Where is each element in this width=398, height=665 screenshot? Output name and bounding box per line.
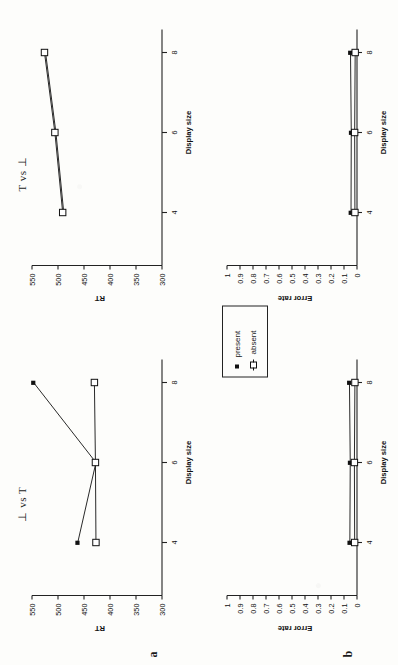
ytick-0-4: 0.4: [301, 603, 310, 613]
ytick-350: 350: [132, 603, 141, 615]
panel-a2-plot: 300 350 400 450 500 550 4 6 8 Display si…: [10, 17, 195, 317]
panel-b2-error: 0 0.1 0.2 0.3 0.4 0.5 0.6 0.7 0.8 0.9 1 …: [205, 17, 390, 317]
marker-absent: [352, 379, 358, 385]
marker-absent: [352, 49, 358, 55]
ytick-550: 550: [28, 273, 37, 285]
xtick-6: 6: [170, 460, 179, 464]
panel-b-xlabel: Display size: [379, 440, 388, 483]
xtick-8: 8: [170, 50, 179, 54]
panel-label-b: b: [341, 650, 356, 657]
panel-a-plot: 300 350 400 450 500 550 4 6 8 Display si…: [10, 347, 195, 647]
marker-absent: [59, 209, 65, 215]
ytick-0-8: 0.8: [249, 273, 258, 283]
marker-absent: [351, 129, 357, 135]
series-present-line: [34, 382, 96, 542]
xtick-6: 6: [365, 130, 374, 134]
marker-absent: [351, 459, 357, 465]
marker-absent: [91, 379, 97, 385]
xtick-4: 4: [170, 210, 179, 214]
ytick-300: 300: [158, 603, 167, 615]
figure-page: a ⊥ vs T 300 350 400 450 500 550: [0, 0, 398, 665]
panel-b-ylabel: Error rate: [278, 623, 313, 632]
ytick-550: 550: [28, 603, 37, 615]
xtick-6: 6: [365, 460, 374, 464]
ytick-0: 0: [353, 603, 362, 607]
panel-a2-rt: T vs ⊥ 300 350 400 450 500 550: [10, 17, 195, 317]
ytick-500: 500: [54, 273, 63, 285]
ytick-0-1: 0.1: [340, 603, 349, 613]
ytick-0-2: 0.2: [327, 273, 336, 283]
ytick-450: 450: [80, 273, 89, 285]
xtick-8: 8: [170, 380, 179, 384]
ytick-0-6: 0.6: [275, 603, 284, 613]
panel-a-xlabel: Display size: [184, 440, 193, 483]
panel-a2-xlabel: Display size: [184, 110, 193, 153]
ytick-1: 1: [223, 273, 232, 277]
ytick-500: 500: [54, 603, 63, 615]
panel-label-a: a: [146, 651, 161, 657]
ytick-0-5: 0.5: [288, 273, 297, 283]
ytick-0-3: 0.3: [314, 273, 323, 283]
panel-b2-xlabel: Display size: [379, 110, 388, 153]
ytick-400: 400: [106, 603, 115, 615]
panel-a2-ylabel: RT: [95, 293, 105, 302]
marker-absent: [93, 539, 99, 545]
ytick-0-7: 0.7: [262, 273, 271, 283]
ytick-0-5: 0.5: [288, 603, 297, 613]
xtick-6: 6: [170, 130, 179, 134]
panel-a-rt: a ⊥ vs T 300 350 400 450 500 550: [10, 347, 195, 647]
ytick-0-7: 0.7: [262, 603, 271, 613]
ytick-0: 0: [353, 273, 362, 277]
marker-absent: [352, 209, 358, 215]
panel-a-ylabel: RT: [95, 623, 105, 632]
marker-absent: [92, 459, 98, 465]
ytick-450: 450: [80, 603, 89, 615]
panel-b2-ylabel: Error rate: [278, 293, 313, 302]
marker-absent: [41, 49, 47, 55]
panel-a-title: ⊥ vs T: [16, 486, 29, 521]
ytick-0-3: 0.3: [314, 603, 323, 613]
panel-b2-plot: 0 0.1 0.2 0.3 0.4 0.5 0.6 0.7 0.8 0.9 1 …: [205, 17, 390, 317]
ytick-0-9: 0.9: [236, 603, 245, 613]
marker-present: [75, 540, 79, 544]
marker-present: [31, 380, 35, 384]
panel-a2-title: T vs ⊥: [16, 156, 29, 191]
panel-b-error: b 0 0.1 0.2 0.3 0.4 0.5 0.: [205, 347, 390, 647]
ytick-0-1: 0.1: [340, 273, 349, 283]
ytick-0-9: 0.9: [236, 273, 245, 283]
ytick-0-2: 0.2: [327, 603, 336, 613]
ytick-350: 350: [132, 273, 141, 285]
xtick-8: 8: [365, 50, 374, 54]
xtick-8: 8: [365, 380, 374, 384]
ytick-400: 400: [106, 273, 115, 285]
xtick-4: 4: [170, 540, 179, 544]
marker-present: [347, 380, 351, 384]
ytick-1: 1: [223, 603, 232, 607]
marker-absent: [52, 129, 58, 135]
ytick-0-8: 0.8: [249, 603, 258, 613]
xtick-4: 4: [365, 210, 374, 214]
ytick-0-6: 0.6: [275, 273, 284, 283]
ytick-300: 300: [158, 273, 167, 285]
ytick-0-4: 0.4: [301, 273, 310, 283]
panel-b-plot: 0 0.1 0.2 0.3 0.4 0.5 0.6 0.7 0.8 0.9 1 …: [205, 347, 390, 647]
marker-absent: [351, 539, 357, 545]
xtick-4: 4: [365, 540, 374, 544]
